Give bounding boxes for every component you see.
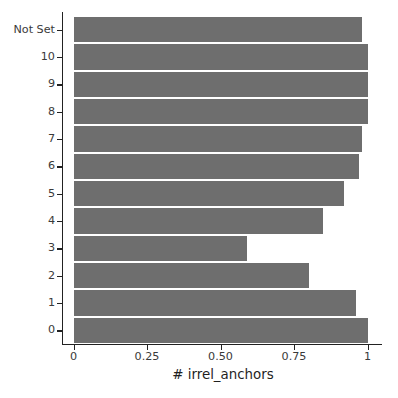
y-axis-tick-label: 1	[48, 297, 55, 308]
bar	[74, 44, 368, 69]
y-axis-tick-mark	[57, 30, 62, 31]
y-axis-tick-label: 4	[48, 215, 55, 226]
bar	[74, 236, 247, 261]
y-axis-tick-label: 7	[48, 133, 55, 144]
bar-row	[74, 207, 368, 234]
x-axis-tick-mark	[294, 345, 295, 350]
y-axis-tick-mark	[57, 276, 62, 277]
bar-row	[74, 43, 368, 70]
y-axis-tick-mark	[57, 57, 62, 58]
bar-row	[74, 71, 368, 98]
x-axis-tick-mark	[147, 345, 148, 350]
bar-row	[74, 235, 368, 262]
x-axis-title: # irrel_anchors	[0, 368, 398, 381]
y-axis-tick-label: 9	[48, 79, 55, 90]
x-axis-tick-label: 0.25	[135, 351, 160, 362]
y-axis-tick-mark	[57, 194, 62, 195]
bar-row	[74, 317, 368, 344]
y-axis-tick-label: 8	[48, 106, 55, 117]
x-axis-tick-label: 0.75	[282, 351, 307, 362]
y-axis-tick-mark	[57, 84, 62, 85]
x-axis-tick-label: 0	[70, 351, 77, 362]
x-axis-tick-label: 1	[364, 351, 371, 362]
bar	[74, 154, 359, 179]
bar	[74, 126, 362, 151]
y-axis-tick-mark	[57, 166, 62, 167]
bar-row	[74, 153, 368, 180]
x-axis-tick-mark	[74, 345, 75, 350]
plot-area	[74, 16, 368, 344]
bar	[74, 208, 324, 233]
y-axis-tick-label: Not Set	[13, 24, 55, 35]
x-axis-tick-label: 0.50	[208, 351, 233, 362]
bar	[74, 17, 362, 42]
bar	[74, 181, 344, 206]
y-axis-tick-label: 2	[48, 270, 55, 281]
bar-chart: Not Set109876543210 00.250.500.751 # irr…	[0, 0, 398, 398]
x-axis-tick-mark	[368, 345, 369, 350]
y-axis-tick-mark	[57, 303, 62, 304]
y-axis-tick-label: 10	[41, 51, 55, 62]
y-axis-spine	[62, 12, 63, 344]
bar-row	[74, 98, 368, 125]
y-axis-tick-label: 0	[48, 325, 55, 336]
y-axis-tick-label: 5	[48, 188, 55, 199]
bar	[74, 72, 368, 97]
y-axis-tick-label: 3	[48, 243, 55, 254]
y-axis-tick-labels: Not Set109876543210	[0, 0, 55, 398]
y-axis-tick-mark	[57, 330, 62, 331]
x-axis-tick-mark	[221, 345, 222, 350]
bar-row	[74, 289, 368, 316]
bar	[74, 99, 368, 124]
bar-row	[74, 262, 368, 289]
bar	[74, 263, 309, 288]
bar-row	[74, 180, 368, 207]
y-axis-tick-mark	[57, 112, 62, 113]
y-axis-tick-label: 6	[48, 161, 55, 172]
bar-row	[74, 16, 368, 43]
y-axis-tick-mark	[57, 248, 62, 249]
y-axis-tick-mark	[57, 221, 62, 222]
y-axis-tick-mark	[57, 139, 62, 140]
bar	[74, 318, 368, 343]
bar	[74, 290, 356, 315]
bar-row	[74, 125, 368, 152]
